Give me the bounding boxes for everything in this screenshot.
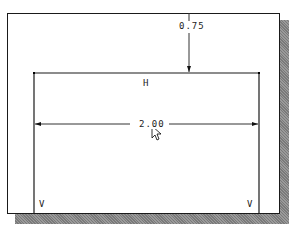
vertical-dimension-value[interactable]: 0.75 xyxy=(177,21,207,31)
arrow-down-icon xyxy=(187,66,191,72)
arrow-left-icon xyxy=(35,122,41,126)
vertex-top-left[interactable] xyxy=(33,72,35,74)
vertex-top-right[interactable] xyxy=(258,72,260,74)
horizontal-constraint-label: H xyxy=(143,78,149,88)
vertical-constraint-label-left: V xyxy=(39,199,45,209)
horizontal-dimension-value[interactable]: 2.00 xyxy=(137,119,167,129)
arrow-right-icon xyxy=(252,122,258,126)
vertical-constraint-label-right: V xyxy=(247,199,253,209)
